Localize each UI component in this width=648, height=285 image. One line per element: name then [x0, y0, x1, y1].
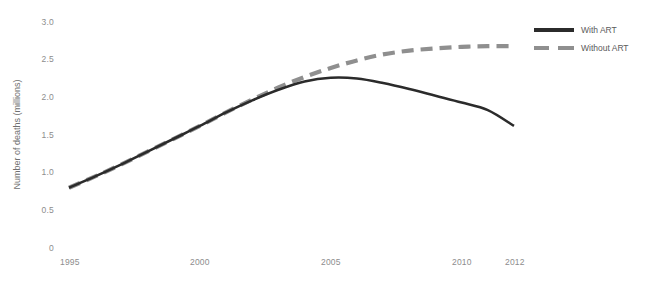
x-tick-label: 2012: [505, 258, 525, 267]
legend-item-label: With ART: [581, 26, 617, 35]
legend-dashed-line-icon: [534, 43, 574, 53]
y-axis-title: Number of deaths (millions): [13, 55, 22, 215]
y-tick-label: 1.5: [28, 131, 54, 140]
chart-figure: 3.0 2.5 2.0 1.5 1.0 0.5 0 1995 2000 2005…: [0, 0, 648, 285]
legend-item-with-art: With ART: [534, 21, 646, 39]
chart-legend: With ART Without ART: [534, 21, 646, 57]
y-tick-label: 0.5: [28, 206, 54, 215]
legend-solid-line-icon: [534, 25, 574, 35]
x-tick-label: 2000: [190, 258, 210, 267]
y-tick-label: 2.0: [28, 93, 54, 102]
series-line-with-art: [69, 78, 514, 188]
y-tick-label: 3.0: [28, 18, 54, 27]
y-tick-label: 2.5: [28, 55, 54, 64]
x-tick-label: 2005: [321, 258, 341, 267]
series-line-without-art: [69, 46, 514, 188]
legend-item-without-art: Without ART: [534, 39, 646, 57]
x-tick-label: 1995: [60, 258, 80, 267]
legend-item-label: Without ART: [581, 44, 629, 53]
y-tick-label: 1.0: [28, 168, 54, 177]
x-tick-label: 2010: [452, 258, 472, 267]
y-tick-label: 0: [28, 244, 54, 253]
